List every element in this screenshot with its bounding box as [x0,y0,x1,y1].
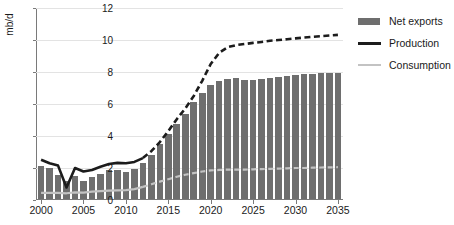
x-tick-label: 2025 [241,204,264,216]
y-tick-label: 6 [107,99,113,110]
legend-item-production: Production [358,34,454,52]
line-production-projection [143,35,338,158]
x-tick-label: 2020 [199,204,222,216]
legend-label-consumption: Consumption [389,59,451,71]
x-tick-label: 2005 [72,204,95,216]
line-series-layer [36,8,343,200]
x-tick-label: 2010 [114,204,137,216]
x-tick-label: 2030 [284,204,307,216]
line-swatch-light-icon [358,58,384,72]
legend-item-net-exports: Net exports [358,12,454,30]
bar-swatch-icon [358,14,384,28]
chart-legend: Net exports Production Consumption [358,12,454,78]
y-tick-label: 12 [102,3,113,14]
legend-label-net-exports: Net exports [389,15,443,27]
legend-label-production: Production [389,37,439,49]
y-tick-label: 4 [107,131,113,142]
legend-item-consumption: Consumption [358,56,454,74]
chart-container: mb/d 024681012 2000200520102015202020252… [0,0,454,225]
y-axis-title: mb/d [4,3,15,47]
x-tick-label: 2000 [29,204,52,216]
x-tick-label: 2035 [326,204,349,216]
y-tick-mark [33,200,36,201]
plot-area [36,8,343,200]
line-production-history [41,158,143,187]
line-consumption-history [41,187,143,193]
y-tick-label: 8 [107,67,113,78]
y-tick-label: 10 [102,35,113,46]
line-swatch-dark-icon [358,36,384,50]
y-tick-label: 2 [107,163,113,174]
x-tick-label: 2015 [157,204,180,216]
line-consumption-projection [143,167,338,187]
y-tick-label: 0 [107,195,113,206]
